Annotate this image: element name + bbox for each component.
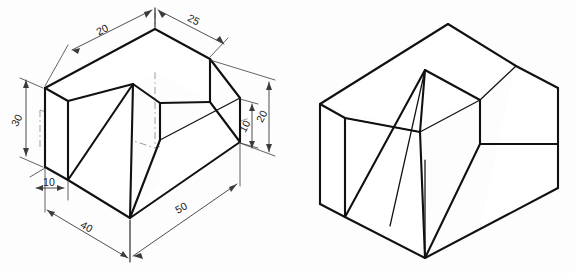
edge-notch-top-right: [160, 102, 210, 103]
face-right-top-rear: [320, 24, 515, 132]
dim-line-50-bottom-right: [133, 184, 237, 256]
face-top-right-slab: [155, 29, 210, 102]
dim-line-40-bottom-left: [47, 210, 128, 258]
face-left-end: [45, 88, 68, 180]
face-right-lower: [160, 98, 240, 184]
figure-left-dimensioned-isometric: 20 25 30: [8, 8, 275, 262]
arrow-20ro-bottom: [266, 144, 272, 152]
edge-notch-left-wall: [133, 84, 160, 103]
ext-line-30-top: [20, 78, 43, 88]
dimension-30-left-label: 30: [8, 112, 24, 128]
arrow-20ro-top: [266, 82, 272, 90]
arrow-20tl-end: [144, 10, 152, 18]
dimension-40-bottom-left-label: 40: [79, 218, 95, 234]
dimension-20-top-left-label: 20: [94, 21, 110, 37]
arrow-50-start: [133, 253, 143, 259]
ext-line-10ri-top: [240, 99, 258, 104]
ext-line-10ri-bottom: [240, 143, 258, 148]
solid-faces-left: [45, 29, 240, 218]
technical-drawing-canvas: 20 25 30: [0, 0, 575, 273]
dimension-30-left-height: 30: [8, 78, 43, 167]
drawing-sheet: 20 25 30: [0, 0, 575, 273]
face-right-outer-slab: [480, 66, 558, 230]
ext-line-30-bottom: [20, 157, 43, 167]
arrow-10lb-end: [57, 185, 64, 191]
arrow-50-end: [229, 184, 237, 192]
face-right-left-end: [320, 104, 345, 217]
face-front-slope-left: [68, 84, 133, 218]
arrow-40-end: [120, 251, 128, 258]
arrow-25tr-end: [216, 36, 224, 44]
figure-right-plain-isometric: [320, 24, 558, 258]
arrow-10ri-top: [249, 104, 255, 111]
dimension-20-right-outer-label: 20: [253, 108, 269, 124]
arrow-10lb-start: [36, 185, 43, 191]
dimension-50-bottom-right-label: 50: [173, 199, 189, 215]
arrow-30-bottom: [23, 148, 29, 156]
edge-r-incline-diag-2: [425, 144, 480, 258]
arrow-25tr-start: [158, 10, 166, 18]
arrow-40-start: [47, 210, 55, 217]
